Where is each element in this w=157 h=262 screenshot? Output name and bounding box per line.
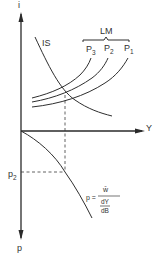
axis-label-i: i [18, 0, 20, 10]
price-curve [21, 131, 92, 218]
price-formula: p = w̄ dY dB [86, 186, 120, 214]
is-curve [35, 37, 112, 116]
axis-label-y: Y [146, 123, 152, 133]
arrow-right-icon [135, 129, 145, 134]
vertical-axis [19, 12, 24, 240]
lm-label-p2: P2 [104, 43, 114, 55]
lm-curve-p1 [32, 58, 128, 107]
arrow-down-icon [19, 230, 24, 240]
arrow-up-icon [19, 12, 24, 22]
lm-brace [83, 37, 129, 42]
axis-label-p: p [17, 243, 22, 253]
is-label: IS [42, 38, 51, 48]
formula-lhs: p = [86, 194, 96, 202]
formula-denominator-top: dY [101, 198, 110, 205]
lm-label: LM [100, 26, 113, 36]
formula-numerator: w̄ [102, 186, 109, 193]
lm-curve-p3 [32, 58, 91, 98]
horizontal-axis [21, 129, 145, 134]
lm-label-p1: P1 [124, 43, 134, 55]
lm-label-p3: P3 [86, 44, 96, 56]
formula-denominator-bottom: dB [101, 207, 109, 214]
is-lm-diagram: i p Y IS LM P3 P2 P1 p2 p = w̄ [0, 0, 157, 262]
p2-label: p2 [8, 169, 17, 181]
